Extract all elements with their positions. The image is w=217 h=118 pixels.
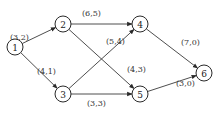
node-1: 1: [7, 39, 23, 55]
node-6: 6: [196, 65, 212, 81]
nodes-layer: 123456: [7, 16, 212, 102]
edge-label-4-6: (7,0): [181, 38, 200, 47]
edge-label-3-4: (5,4): [106, 37, 125, 46]
node-4: 4: [132, 16, 148, 32]
edge-label-1-3: (4,1): [37, 67, 56, 76]
node-label: 6: [201, 69, 207, 79]
edge-4-6: [146, 29, 197, 68]
edge-label-2-5: (4,3): [127, 65, 146, 74]
node-label: 5: [137, 90, 143, 100]
node-3: 3: [55, 86, 71, 102]
node-label: 4: [137, 20, 143, 30]
edge-label-2-4: (6,5): [82, 9, 101, 18]
node-5: 5: [132, 86, 148, 102]
node-label: 2: [60, 20, 66, 30]
node-label: 1: [12, 43, 18, 53]
node-2: 2: [55, 16, 71, 32]
edge-label-3-5: (3,3): [87, 99, 106, 108]
edges-layer: [21, 24, 198, 94]
network-diagram: (3,2)(4,1)(6,5)(4,3)(5,4)(3,3)(7,0)(3,0)…: [0, 0, 217, 118]
node-label: 3: [60, 90, 66, 100]
edge-label-5-6: (3,0): [176, 79, 195, 88]
